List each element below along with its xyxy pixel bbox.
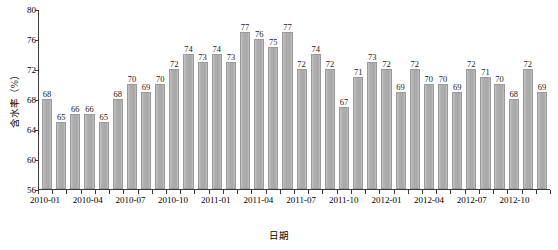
- bar[interactable]: 70: [127, 84, 137, 189]
- bar[interactable]: 68: [113, 99, 123, 189]
- x-tick-mark: [493, 190, 494, 194]
- x-tick-mark: [294, 190, 295, 194]
- bar-slot: 69: [535, 10, 549, 189]
- x-tick-mark: [194, 190, 195, 194]
- bar-value-label: 77: [241, 23, 250, 32]
- bar-slot: 72: [295, 10, 309, 189]
- bar-value-label: 73: [368, 53, 377, 62]
- bar-value-label: 73: [198, 53, 207, 62]
- bar[interactable]: 72: [325, 69, 335, 189]
- x-tick-label-2012-01: 2012-01: [371, 195, 401, 205]
- bar-slot: 70: [493, 10, 507, 189]
- bar[interactable]: 75: [268, 47, 278, 190]
- bar-value-label: 70: [439, 75, 448, 84]
- bar-slot: 72: [464, 10, 478, 189]
- x-tick-label-2011-10: 2011-10: [329, 195, 359, 205]
- bar[interactable]: 70: [424, 84, 434, 189]
- bar-slot: 65: [97, 10, 111, 189]
- bar[interactable]: 66: [84, 114, 94, 189]
- bar[interactable]: 65: [56, 122, 66, 190]
- bar[interactable]: 72: [169, 69, 179, 189]
- x-tick-label-2010-10: 2010-10: [158, 195, 188, 205]
- bar[interactable]: 70: [494, 84, 504, 189]
- bar[interactable]: 69: [396, 92, 406, 190]
- bar-slot: 68: [507, 10, 521, 189]
- bar-slot: 77: [280, 10, 294, 189]
- bar-slot: 74: [181, 10, 195, 189]
- bar[interactable]: 71: [353, 77, 363, 190]
- bar[interactable]: 72: [297, 69, 307, 189]
- bar-slot: 68: [40, 10, 54, 189]
- bar-value-label: 69: [396, 83, 405, 92]
- bar-value-label: 73: [227, 53, 236, 62]
- bar-value-label: 72: [170, 60, 179, 69]
- x-tick-mark: [379, 190, 380, 194]
- x-tick-mark: [52, 190, 53, 194]
- x-axis-title: 日期: [0, 228, 558, 242]
- x-tick-mark: [308, 190, 309, 194]
- bar[interactable]: 74: [212, 54, 222, 189]
- bar-value-label: 72: [297, 60, 306, 69]
- bar[interactable]: 77: [282, 32, 292, 190]
- bar[interactable]: 67: [339, 107, 349, 190]
- bar-slot: 70: [422, 10, 436, 189]
- bar[interactable]: 74: [183, 54, 193, 189]
- bar-slot: 73: [224, 10, 238, 189]
- bar-value-label: 68: [114, 90, 123, 99]
- x-tick-mark: [66, 190, 67, 194]
- bar-slot: 70: [153, 10, 167, 189]
- bar[interactable]: 72: [410, 69, 420, 189]
- bar-chart: 含水率（%） 56606468727680 686566666568706970…: [0, 0, 558, 250]
- x-tick-mark: [465, 190, 466, 194]
- bar-slot: 74: [309, 10, 323, 189]
- bar[interactable]: 68: [509, 99, 519, 189]
- bar[interactable]: 73: [367, 62, 377, 190]
- bar[interactable]: 76: [254, 39, 264, 189]
- bar[interactable]: 73: [198, 62, 208, 190]
- bar-value-label: 67: [340, 98, 349, 107]
- bar-value-label: 70: [128, 75, 137, 84]
- bar-value-label: 70: [425, 75, 434, 84]
- bar[interactable]: 70: [438, 84, 448, 189]
- bar-value-label: 74: [311, 45, 320, 54]
- bar-slot: 70: [125, 10, 139, 189]
- bar[interactable]: 77: [240, 32, 250, 190]
- bar[interactable]: 74: [311, 54, 321, 189]
- x-tick-mark: [95, 190, 96, 194]
- bar-value-label: 72: [524, 60, 533, 69]
- bar-slot: 73: [196, 10, 210, 189]
- bar[interactable]: 68: [42, 99, 52, 189]
- x-tick-label-2010-01: 2010-01: [30, 195, 60, 205]
- x-tick-mark: [365, 190, 366, 194]
- bar-slot: 68: [111, 10, 125, 189]
- x-tick-label-2011-04: 2011-04: [244, 195, 274, 205]
- bar[interactable]: 72: [523, 69, 533, 189]
- bar[interactable]: 71: [480, 77, 490, 190]
- bar-value-label: 74: [213, 45, 222, 54]
- bar-slot: 72: [323, 10, 337, 189]
- bar-value-label: 65: [57, 113, 66, 122]
- bar-value-label: 72: [382, 60, 391, 69]
- bar[interactable]: 65: [99, 122, 109, 190]
- bar-slot: 69: [450, 10, 464, 189]
- x-tick-mark: [38, 190, 39, 194]
- bar[interactable]: 69: [452, 92, 462, 190]
- bar[interactable]: 72: [381, 69, 391, 189]
- bar-slot: 67: [337, 10, 351, 189]
- x-tick-label-2012-10: 2012-10: [499, 195, 529, 205]
- bar[interactable]: 66: [70, 114, 80, 189]
- bar[interactable]: 69: [537, 92, 547, 190]
- bar-value-label: 66: [71, 105, 80, 114]
- x-tick-mark: [507, 190, 508, 194]
- x-tick-mark: [422, 190, 423, 194]
- x-tick-mark: [180, 190, 181, 194]
- x-tick-mark: [266, 190, 267, 194]
- bar[interactable]: 69: [141, 92, 151, 190]
- bar-slot: 72: [521, 10, 535, 189]
- x-tick-mark: [223, 190, 224, 194]
- x-tick-mark: [109, 190, 110, 194]
- bar[interactable]: 72: [466, 69, 476, 189]
- bar[interactable]: 73: [226, 62, 236, 190]
- bar[interactable]: 70: [155, 84, 165, 189]
- bar-slot: 66: [82, 10, 96, 189]
